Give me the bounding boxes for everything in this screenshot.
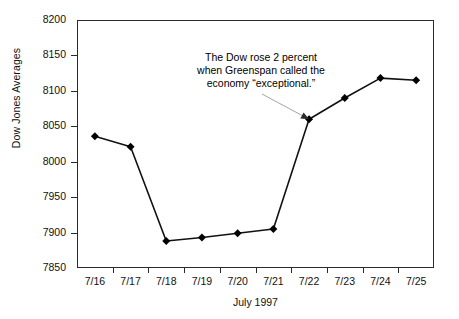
annotation-line-1: The Dow rose 2 percent: [186, 51, 336, 64]
annotation-line-2: when Greenspan called the: [186, 64, 336, 77]
annotation-callout: The Dow rose 2 percentwhen Greenspan cal…: [186, 51, 336, 91]
chart-figure: Dow Jones Averages 785079007950800080508…: [0, 0, 459, 319]
annotation-arrowhead-icon: [300, 112, 309, 119]
annotation-leader-line: [262, 94, 304, 117]
annotation-line-3: economy “exceptional.”: [186, 77, 336, 90]
annotation-leader-layer: [0, 0, 459, 319]
